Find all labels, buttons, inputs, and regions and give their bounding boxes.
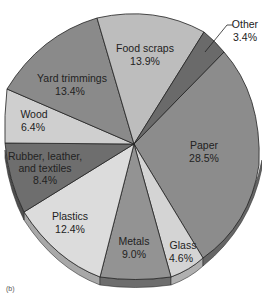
label-other-name: Other xyxy=(232,18,259,30)
label-rubber-name-2: and textiles xyxy=(18,162,71,174)
label-wood-name: Wood xyxy=(20,108,47,120)
label-food-name: Food scraps xyxy=(116,42,174,54)
label-glass-value: 4.6% xyxy=(169,252,193,264)
label-rubber-value: 8.4% xyxy=(33,174,57,186)
label-food-value: 13.9% xyxy=(130,55,160,67)
label-rubber-name-1: Rubber, leather, xyxy=(8,150,82,162)
label-paper-name: Paper xyxy=(190,139,219,151)
label-glass-name: Glass xyxy=(170,239,197,251)
label-plastics-value: 12.4% xyxy=(55,223,85,235)
label-metals-name: Metals xyxy=(119,235,150,247)
label-yard-name: Yard trimmings xyxy=(37,72,107,84)
label-yard-value: 13.4% xyxy=(55,85,85,97)
figure-caption: (b) xyxy=(6,285,15,292)
label-other-value: 3.4% xyxy=(233,31,257,43)
pie-chart: Paper 28.5% Glass 4.6% Metals 9.0% Plast… xyxy=(0,0,262,297)
label-wood-value: 6.4% xyxy=(21,121,45,133)
label-plastics-name: Plastics xyxy=(52,210,88,222)
label-paper-value: 28.5% xyxy=(189,152,219,164)
label-metals-value: 9.0% xyxy=(122,248,146,260)
